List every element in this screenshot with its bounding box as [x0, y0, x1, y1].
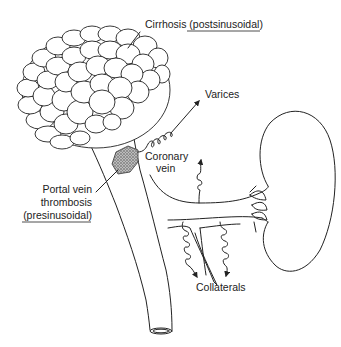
coronary-vein-coil — [197, 160, 202, 203]
portal-vein-thrombus — [112, 146, 138, 174]
portal-hypertension-diagram: Cirrhosis (postsinusoidal) Varices Coron… — [0, 0, 341, 347]
collaterals-label: Collaterals — [196, 281, 246, 293]
collateral-left — [182, 222, 197, 277]
splenic-vein — [150, 175, 262, 220]
portal-thrombosis-label-line2: thrombosis — [41, 196, 92, 208]
portal-thrombosis-label-line1: Portal vein — [42, 183, 92, 195]
cirrhosis-label: Cirrhosis (postsinusoidal) — [145, 18, 263, 30]
cirrhotic-liver — [17, 26, 170, 149]
portal-thrombosis-label-line3: (presinusoidal) — [23, 209, 92, 221]
postsinusoidal-qualifier: (postsinusoidal) — [189, 18, 263, 30]
mesenteric-veins — [168, 224, 240, 285]
collateral-right — [220, 222, 229, 276]
coronary-vein-label-line1: Coronary — [145, 150, 189, 162]
varices-label: Varices — [205, 88, 239, 100]
spleen — [250, 111, 335, 271]
thrombosis-leader — [96, 170, 118, 192]
coronary-vein-label-line2: vein — [156, 162, 175, 174]
